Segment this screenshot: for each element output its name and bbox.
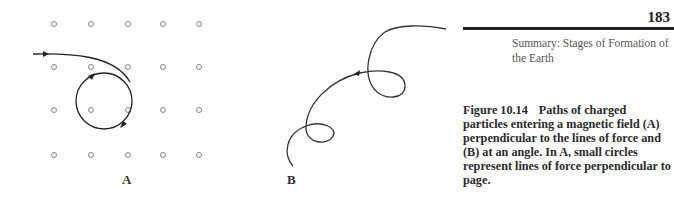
figure-caption: Figure 10.14 Paths of charged particles … — [463, 103, 673, 187]
panel-a-field-lines — [52, 22, 202, 158]
panel-b-label: B — [287, 172, 296, 187]
running-head: Summary: Stages of Formation of the Eart… — [512, 36, 672, 66]
panel-a-label: A — [122, 172, 132, 187]
panel-a-particle-path — [33, 54, 132, 129]
arrowhead-icon — [354, 70, 360, 76]
arrowhead-icon — [43, 51, 127, 128]
panel-b-particle-path — [287, 26, 446, 166]
page-number: 183 — [648, 9, 671, 26]
figure-number: Figure 10.14 — [463, 103, 528, 117]
header-rule — [463, 27, 674, 30]
